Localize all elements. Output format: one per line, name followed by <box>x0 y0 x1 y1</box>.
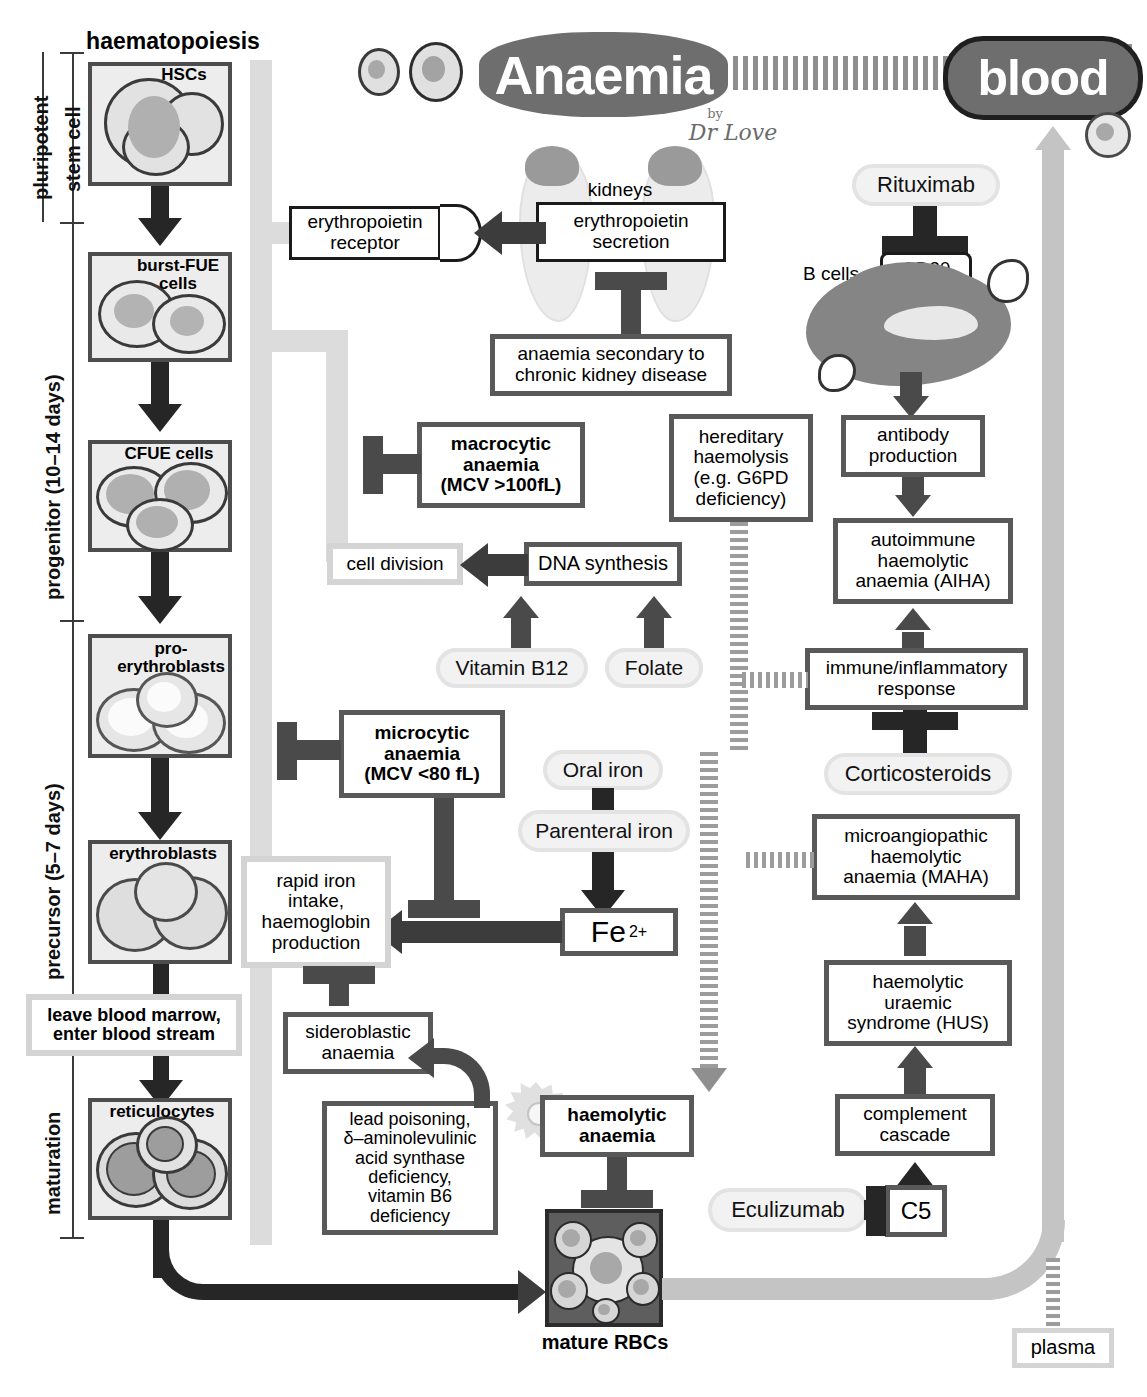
arrow-parenteral-to-fe-stem <box>592 852 614 894</box>
pill-corticosteroids: Corticosteroids <box>824 753 1012 795</box>
box-antibody-production: antibody production <box>841 415 985 477</box>
box-rapid-iron: rapid iron intake, haemoglobin productio… <box>241 856 391 968</box>
arrow-burst-to-cfue-stem <box>151 362 169 408</box>
stage-axis-line <box>72 52 74 1237</box>
arrow-fe-to-rapidiron-shaft <box>400 921 562 943</box>
arrow-b12-stem <box>511 616 531 648</box>
diagram-canvas: pluripotent stem cell progenitor (10–14 … <box>0 0 1147 1397</box>
blood-return-horizontal <box>662 1278 992 1300</box>
arrow-proeryth-to-eryth-head <box>138 812 182 840</box>
blood-return-arrowhead <box>1035 126 1071 150</box>
b-cell-receptor-top <box>987 259 1029 303</box>
arrow-burst-to-cfue-head <box>138 404 182 432</box>
arrow-dna-to-celldiv-shaft <box>486 554 528 576</box>
haemolytic-inhibit-cap <box>581 1190 653 1208</box>
stage-label-precursor: precursor (5–7 days) <box>42 783 65 980</box>
box-haemolytic-anaemia: haemolytic anaemia <box>540 1095 694 1157</box>
stage-tick-5 <box>60 1237 84 1239</box>
arrow-epo-to-receptor-shaft <box>500 222 546 244</box>
retic-to-rbc-arrowhead <box>518 1270 546 1314</box>
box-cell-division: cell division <box>327 543 463 585</box>
lead-to-sidero-curve <box>434 1048 490 1108</box>
arrow-complement-to-hus-stem <box>904 1068 926 1094</box>
box-plasma: plasma <box>1012 1328 1114 1368</box>
box-c5: C5 <box>885 1185 947 1237</box>
mature-rbc-s2-c <box>630 1230 646 1246</box>
box-lead-poisoning: lead poisoning, δ–aminolevulinic acid sy… <box>322 1101 498 1235</box>
fe-charge: 2+ <box>629 923 647 941</box>
stage-tick-3 <box>60 620 84 622</box>
stage-label-pluripotent: pluripotent <box>30 96 53 200</box>
mature-rbc-s4-c <box>633 1279 649 1295</box>
retic-exit-corner <box>153 1240 213 1300</box>
arrow-complement-to-hus-head <box>897 1046 933 1068</box>
microcytic-down-stem <box>434 798 454 908</box>
box-fe2: Fe 2+ <box>560 908 678 956</box>
plasma-hatched-link <box>1046 1258 1060 1330</box>
proe-cell-c-inner <box>147 682 181 712</box>
mature-rbc-big-center <box>590 1252 622 1284</box>
free-cell-icon-2-nucleus <box>422 56 445 82</box>
box-microcytic-anaemia: microcytic anaemia (MCV <80 fL) <box>339 710 505 798</box>
stage-label-progenitor: progenitor (10–14 days) <box>42 374 65 600</box>
burst-cell-a-nucleus <box>114 294 154 328</box>
eryth-cell-c <box>134 862 198 922</box>
cell-label-burst-fue: burst-FUE cells <box>130 254 226 296</box>
macrocytic-inhibit-cap <box>363 436 383 494</box>
cell-label-erythroblasts: erythroblasts <box>98 842 228 866</box>
arrow-folate-head <box>636 596 672 618</box>
stage-label-maturation: maturation <box>42 1112 65 1215</box>
arrow-antibody-to-aiha-head <box>895 495 931 517</box>
arrow-hus-to-maha-head <box>897 902 933 924</box>
burst-cell-b-nucleus <box>170 306 204 336</box>
hsc-nucleus <box>128 96 180 158</box>
blood-return-vertical <box>1042 150 1064 1242</box>
mature-rbc-s5-c <box>598 1304 610 1315</box>
title-blob: Anaemia <box>479 32 728 117</box>
microcytic-inhibit-cap <box>277 722 297 780</box>
pill-oral-iron: Oral iron <box>543 750 663 790</box>
cell-label-hscs: HSCs <box>140 64 228 86</box>
hereditary-hatched-down-2 <box>700 752 718 1072</box>
pale-pathway-branch-v <box>326 330 348 562</box>
pill-folate: Folate <box>605 648 703 688</box>
label-kidneys: kidneys <box>568 178 672 202</box>
stage-label-stem-cell: stem cell <box>62 106 85 192</box>
arrow-cfue-to-proeryth-head <box>138 596 182 624</box>
cell-label-pro-erythroblasts: pro- erythroblasts <box>112 636 230 680</box>
byline-name: Dr Love <box>678 120 788 146</box>
arrow-hsc-to-burst-head <box>138 218 182 246</box>
lead-to-sidero-arrowhead <box>408 1038 434 1078</box>
box-aiha: autoimmune haemolytic anaemia (AIHA) <box>833 518 1013 604</box>
box-hereditary-haemolysis: hereditary haemolysis (e.g. G6PD deficie… <box>669 414 813 522</box>
immune-hatched-stub <box>742 672 808 688</box>
arrow-b12-head <box>503 596 539 618</box>
pill-rituximab: Rituximab <box>852 164 1000 206</box>
free-cell-icon-3-nucleus <box>1096 123 1114 141</box>
box-dna-synthesis: DNA synthesis <box>524 542 682 586</box>
mature-rbc-s3-c <box>558 1280 576 1298</box>
retic-cell-c-nuc <box>146 1126 184 1162</box>
box-leave-marrow: leave blood marrow, enter blood stream <box>26 994 242 1056</box>
epo-inhibit-stem <box>621 272 641 334</box>
arrow-folate-stem <box>644 616 664 648</box>
hereditary-hatched-arrowhead <box>691 1068 727 1092</box>
stage-tick-2 <box>60 222 84 224</box>
box-macrocytic-anaemia: macrocytic anaemia (MCV >100fL) <box>417 422 585 508</box>
box-epo-receptor: erythropoietin receptor <box>289 206 441 260</box>
mature-rbc-s1-c <box>562 1229 580 1247</box>
free-cell-icon-1-nucleus <box>368 60 385 79</box>
arrow-dna-to-celldiv-head <box>460 543 488 587</box>
cfue-cell-c-nucleus <box>136 506 178 538</box>
box-maha: microangiopathic haemolytic anaemia (MAH… <box>812 814 1020 900</box>
box-hus: haemolytic uraemic syndrome (HUS) <box>824 960 1012 1046</box>
page-title-haematopoiesis: haematopoiesis <box>78 26 268 56</box>
label-mature-rbcs: mature RBCs <box>540 1330 670 1356</box>
maha-hatched-curve <box>706 840 760 880</box>
box-immune-response: immune/inflammatory response <box>805 648 1028 710</box>
arrow-proeryth-to-eryth-stem <box>151 758 169 816</box>
retic-to-rbc-horizontal <box>205 1284 525 1300</box>
pill-parenteral-iron: Parenteral iron <box>518 810 690 852</box>
cell-label-reticulocytes: reticulocytes <box>96 1100 228 1124</box>
microcytic-down-cap <box>408 900 480 918</box>
